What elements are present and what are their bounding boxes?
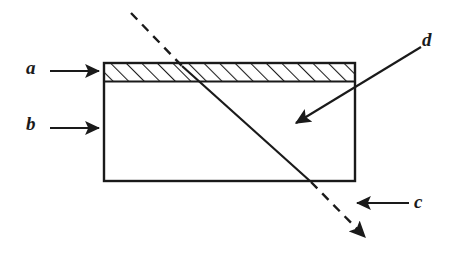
label-c: c [414, 192, 422, 211]
diagram-vector-layer [0, 0, 451, 256]
label-a: a [26, 58, 36, 77]
oblique-ray-solid-middle [182, 66, 310, 181]
oblique-ray-dashed-upper [131, 13, 183, 67]
oblique-ray-dashed-lower [311, 182, 365, 237]
label-d: d [422, 30, 432, 49]
figure-canvas: a b c d [0, 0, 451, 256]
hatched-top-layer [105, 64, 354, 81]
label-b: b [26, 114, 36, 133]
callout-arrow-d [296, 47, 421, 123]
